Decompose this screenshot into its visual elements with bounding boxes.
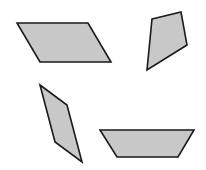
shapes-diagram: [0, 0, 206, 170]
trapezoid-shape: [100, 130, 194, 157]
quadrilateral-shape: [147, 12, 187, 70]
parallelogram-shape: [17, 23, 111, 62]
rhombus-shape: [40, 85, 82, 162]
